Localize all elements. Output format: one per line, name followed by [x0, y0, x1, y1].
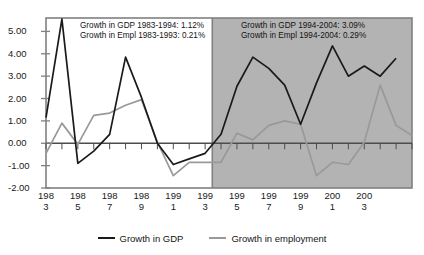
- y-axis-tick-label: 3.00: [0, 71, 38, 82]
- x-axis-tick-label: 1993: [195, 190, 215, 212]
- annotation-line: Growth in Empl 1983-1993: 0.21%: [80, 31, 205, 41]
- x-axis-tick-label: 1989: [131, 190, 151, 212]
- x-axis-tick-label: 1983: [36, 190, 56, 212]
- y-axis-tick-label: 4.00: [0, 49, 38, 60]
- annotation-line: Growth in Empl 1994-2004: 0.29%: [241, 31, 366, 41]
- legend-label: Growth in employment: [231, 233, 326, 244]
- legend-line-swatch-icon: [98, 237, 115, 239]
- y-axis-tick-label: 2.00: [0, 94, 38, 105]
- x-axis-tick-label: 1985: [68, 190, 88, 212]
- legend-item-growth-in-gdp: Growth in GDP: [98, 233, 184, 244]
- y-axis-tick-label: 5.00: [0, 26, 38, 37]
- left-period-annotation: Growth in GDP 1983-1994: 1.12% Growth in…: [80, 21, 205, 41]
- x-axis-tick-label: 2001: [322, 190, 342, 212]
- legend-label: Growth in GDP: [120, 233, 184, 244]
- x-axis-tick-label: 2003: [354, 190, 374, 212]
- annotation-line: Growth in GDP 1994-2004: 3.09%: [241, 21, 366, 31]
- y-axis-label-group: 5.004.003.002.001.000.00-1.00-2.00: [0, 18, 38, 188]
- x-axis-tick-label: 1999: [291, 190, 311, 212]
- x-axis-label-group: 1983198519871989199119931995199719992001…: [0, 190, 424, 224]
- legend-line-swatch-icon: [209, 237, 226, 239]
- y-axis-tick-label: -1.00: [0, 161, 38, 172]
- y-axis-tick-label: 1.00: [0, 116, 38, 127]
- x-axis-tick-label: 1995: [227, 190, 247, 212]
- chart-legend: Growth in GDP Growth in employment: [0, 228, 424, 248]
- legend-item-growth-in-employment: Growth in employment: [209, 233, 326, 244]
- right-period-annotation: Growth in GDP 1994-2004: 3.09% Growth in…: [241, 21, 366, 41]
- annotation-line: Growth in GDP 1983-1994: 1.12%: [80, 21, 205, 31]
- x-axis-tick-label: 1987: [100, 190, 120, 212]
- x-axis-tick-label: 1991: [163, 190, 183, 212]
- y-axis-tick-label: 0.00: [0, 138, 38, 149]
- x-axis-tick-label: 1997: [259, 190, 279, 212]
- chart-figure: 5.004.003.002.001.000.00-1.00-2.00 19831…: [0, 0, 424, 255]
